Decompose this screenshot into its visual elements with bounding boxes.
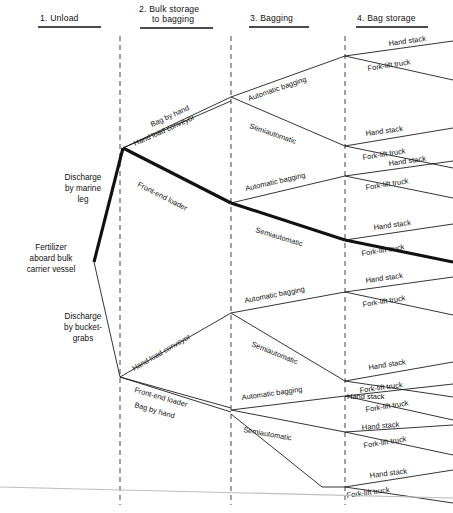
- unload-option-marine-leg-line2: by marine: [65, 184, 101, 193]
- stage-header-bagging-label: 3. Bagging: [250, 13, 293, 23]
- stage-header-bulk-storage-label-line2: to bagging: [152, 14, 194, 24]
- leaf-label-16: Fork-lift truck: [363, 434, 407, 450]
- branch-bc-semiautomatic: [231, 313, 345, 381]
- edge-label-ta-automatic-bagging: Automatic bagging: [247, 74, 308, 102]
- leaf-label-7: Hand stack: [373, 218, 412, 232]
- storage-branches-8: Hand stack Fork-lift truck: [345, 420, 453, 455]
- bagging-branches-bottom-d: Automatic bagging Semiautomatic: [231, 385, 345, 487]
- edge-label-tb-automatic-bagging: Automatic bagging: [244, 170, 306, 193]
- stage-header-bulk-storage-label-line1: 2. Bulk storage: [139, 4, 199, 14]
- leaf-label-10: Fork-lift truck: [362, 293, 406, 309]
- bagging-branches-top-b: Automatic bagging Semiautomatic: [231, 170, 345, 248]
- stage-header-bag-storage: 4. Bag storage: [356, 13, 428, 27]
- root-label-line3: carrier vessel: [27, 265, 76, 274]
- edge-label-bc-semiautomatic: Semiautomatic: [250, 340, 299, 367]
- branch-ta-automatic-bagging: [231, 56, 345, 97]
- transfer-branches-bottom: Hand load conveyor Front-end loader Bag …: [120, 313, 231, 420]
- leaf-label-15: Hand stack: [361, 420, 399, 432]
- branch-discharge-marine-leg: [94, 148, 123, 262]
- unload-option-bucket-grabs-line2: by bucket-: [64, 323, 102, 332]
- unload-option-marine-leg-line1: Discharge: [65, 173, 102, 182]
- leaf-label-18: Fork-lift truck: [346, 485, 390, 500]
- leaf-label-3: Hand stack: [365, 124, 404, 138]
- edge-label-bd-automatic-bagging: Automatic bagging: [241, 385, 303, 402]
- transfer-branches-top: Bag by hand Hand load conveyor Front-end…: [123, 97, 231, 213]
- storage-branches-4: Hand stack Fork-lift truck: [345, 218, 453, 262]
- unload-branches: Discharge by marine leg Discharge by buc…: [64, 148, 123, 377]
- storage-branches-5: Hand stack Fork-lift truck: [345, 271, 453, 315]
- edge-label-bc-automatic-bagging: Automatic bagging: [244, 284, 306, 305]
- edge-label-top-front-end-loader: Front-end loader: [136, 180, 189, 213]
- stage-header-bulk-storage: 2. Bulk storage to bagging: [139, 4, 213, 28]
- unload-option-bucket-grabs-line1: Discharge: [65, 312, 102, 321]
- decision-tree-diagram: 1. Unload 2. Bulk storage to bagging 3. …: [0, 0, 453, 513]
- storage-branches-1: Hand stack Fork-lift truck: [345, 34, 453, 80]
- stage-header-unload-label: 1. Unload: [40, 13, 79, 23]
- edge-label-bd-semiautomatic: Semiautomatic: [243, 425, 293, 442]
- stage-header-bagging: 3. Bagging: [249, 13, 309, 27]
- stage-dividers: [120, 36, 345, 505]
- bagging-branches-top-a: Automatic bagging Semiautomatic: [231, 56, 345, 146]
- root-node-label: Fertilizer aboard bulk carrier vessel: [27, 243, 76, 274]
- edge-label-bottom-hand-load-conveyor: Hand load conveyor: [131, 332, 193, 373]
- root-label-line1: Fertilizer: [35, 243, 67, 252]
- storage-branches-3: Hand stack Fork-lift truck: [345, 154, 453, 198]
- bagging-branches-bottom-c: Automatic bagging Semiautomatic: [231, 284, 345, 381]
- root-label-line2: aboard bulk: [30, 254, 74, 263]
- unload-option-marine-leg-line3: leg: [78, 195, 89, 204]
- edge-label-tb-semiautomatic: Semiautomatic: [254, 225, 304, 248]
- leaf-label-9: Hand stack: [365, 271, 404, 285]
- unload-option-bucket-grabs-line3: grabs: [73, 334, 93, 343]
- leaf-label-2: Fork-lift truck: [367, 57, 411, 73]
- branch-top-front-end-loader: [123, 148, 231, 203]
- leaf-label-11: Hand stack: [368, 357, 407, 372]
- stage-header-bag-storage-label: 4. Bag storage: [357, 13, 416, 23]
- edge-label-ta-semiautomatic: Semiautomatic: [248, 121, 297, 146]
- stage-header-unload: 1. Unload: [38, 13, 101, 27]
- leaf-label-6: Fork-lift truck: [365, 176, 409, 192]
- leaf-label-13: Hand stack: [347, 392, 385, 401]
